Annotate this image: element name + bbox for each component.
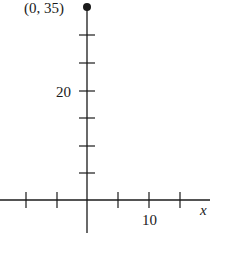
coordinate-plane: (0, 35) 20 10 x [0, 0, 228, 272]
point-label: (0, 35) [24, 0, 64, 17]
x-tick-label-10: 10 [142, 212, 157, 228]
y-tick-label-20: 20 [56, 84, 71, 100]
data-point-marker [83, 3, 91, 11]
x-axis-label: x [199, 202, 207, 218]
